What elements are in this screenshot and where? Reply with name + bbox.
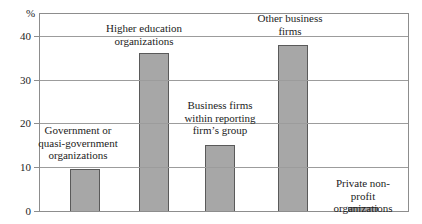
y-axis-tick-label-20: 20 xyxy=(2,116,31,130)
y-axis-tick-0 xyxy=(34,211,40,212)
bar-label-higher-education: Higher education organizations xyxy=(106,22,182,47)
bar-label-business-firms-group: Business firms within reporting firm’s g… xyxy=(184,99,255,137)
y-axis-tick-20 xyxy=(34,123,40,124)
gridline-10 xyxy=(40,167,408,168)
gridline-40 xyxy=(40,36,408,37)
y-axis-tick-40 xyxy=(34,36,40,37)
bar-label-government: Government or quasi-government organizat… xyxy=(38,124,117,162)
bar-higher-education xyxy=(139,53,169,211)
y-axis-tick-label-10: 10 xyxy=(2,160,31,174)
bar-business-firms-group xyxy=(205,145,235,211)
bar-label-other-business-firms: Other business firms xyxy=(257,12,322,37)
bar-label-private-nonprofit: Private non-profit organizations xyxy=(333,177,392,215)
y-axis-tick-label-0: 0 xyxy=(2,204,31,218)
y-axis-tick-10 xyxy=(34,167,40,168)
bar-other-business-firms xyxy=(278,45,308,211)
y-axis-tick-label-40: 40 xyxy=(2,29,31,43)
bar-chart: % Government or quasi-government organiz… xyxy=(0,0,422,224)
y-axis-unit-label: % xyxy=(26,7,35,19)
y-axis-tick-30 xyxy=(34,80,40,81)
y-axis-tick-label-30: 30 xyxy=(2,73,31,87)
bar-government xyxy=(70,169,100,211)
gridline-30 xyxy=(40,80,408,81)
